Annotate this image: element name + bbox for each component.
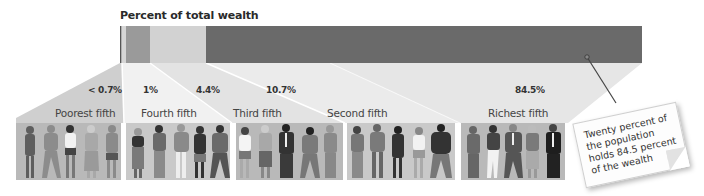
- page-curl-icon: [666, 147, 690, 171]
- pct-fourth: 1%: [143, 85, 158, 95]
- label-fourth-fifth: Fourth fifth: [141, 107, 197, 119]
- people-panel-second: [347, 123, 455, 180]
- label-third-fifth: Third fifth: [233, 107, 282, 119]
- people-illustration-icon: [16, 123, 121, 180]
- pct-poorest: < 0.7%: [88, 85, 122, 95]
- people-panel-fourth: [126, 123, 230, 180]
- label-richest-fifth: Richest fifth: [488, 107, 548, 119]
- people-illustration-icon: [461, 123, 565, 180]
- pct-second: 10.7%: [266, 85, 296, 95]
- pct-richest: 84.5%: [515, 85, 545, 95]
- pct-third: 4.4%: [196, 85, 220, 95]
- bar-segment-fourth: [126, 26, 150, 63]
- label-poorest-fifth: Poorest fifth: [55, 107, 116, 119]
- callout-anchor-dot: [585, 55, 589, 59]
- bar-segment-third: [150, 26, 206, 63]
- people-panel-poorest: [16, 123, 121, 180]
- people-panel-third: [236, 123, 343, 180]
- label-second-fifth: Second fifth: [327, 107, 387, 119]
- people-illustration-icon: [347, 123, 455, 180]
- bar-segment-second-richest: [206, 26, 642, 63]
- people-panel-richest: [461, 123, 565, 180]
- people-illustration-icon: [126, 123, 230, 180]
- people-illustration-icon: [236, 123, 343, 180]
